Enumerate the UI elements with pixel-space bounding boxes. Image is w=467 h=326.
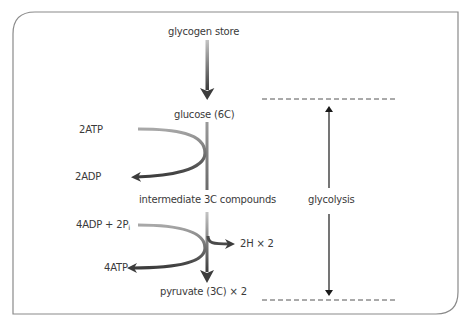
glycogen-to-glucose-arrow — [206, 40, 210, 90]
atp-payoff-curve-arrow — [132, 225, 205, 268]
glycolysis-label: glycolysis — [308, 194, 355, 206]
adp-out-label: 2ADP — [75, 171, 101, 183]
diagram-graphics — [0, 0, 467, 326]
atp-in-label: 2ATP — [79, 124, 103, 136]
glycogen-store-label: glycogen store — [168, 26, 239, 38]
adp-pi-in-label: 4ADP + 2Pi — [76, 219, 130, 234]
intermediate-label: intermediate 3C compounds — [139, 194, 276, 206]
hydrogen-label: 2H × 2 — [240, 238, 274, 250]
intermediate-to-pyruvate-arrow — [206, 212, 209, 272]
glycolysis-diagram: glycogen store glucose (6C) 2ATP 2ADP in… — [0, 0, 467, 326]
pyruvate-label: pyruvate (3C) × 2 — [160, 286, 247, 298]
glucose-label: glucose (6C) — [174, 109, 234, 121]
hydrogen-branch-arrow — [208, 236, 230, 244]
atp-out-label: 4ATP — [104, 262, 128, 274]
diagram-frame — [13, 12, 458, 314]
atp-investment-curve-arrow — [136, 129, 205, 177]
